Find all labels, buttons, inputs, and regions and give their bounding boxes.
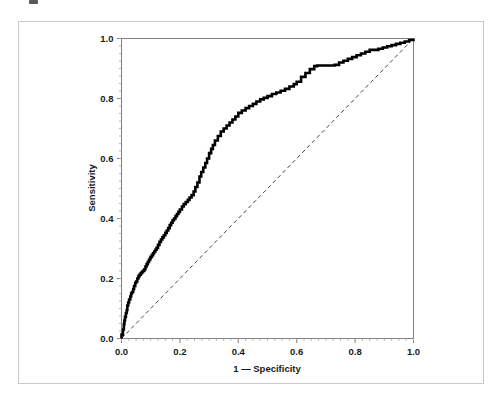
x-tick-label: 0.6 [290,346,303,357]
y-tick-label: 0.8 [100,93,113,104]
y-axis-tick-labels: 0.00.20.40.60.81.0 [100,33,114,344]
roc-curve-line [122,39,414,339]
x-tick-label: 0.0 [115,346,128,357]
y-tick-label: 0.2 [100,273,113,284]
y-axis-minor-ticks [119,39,122,339]
x-axis-title: 1 — Specificity [233,363,301,374]
x-axis-minor-ticks [122,339,414,342]
x-tick-label: 0.2 [173,346,186,357]
x-tick-label: 0.4 [232,346,246,357]
y-axis-title: Sensitivity [86,164,97,212]
y-tick-label: 0.4 [100,213,114,224]
x-tick-label: 0.8 [348,346,361,357]
y-tick-label: 1.0 [100,33,113,44]
y-tick-label: 0.6 [100,153,113,164]
diagonal-reference-line [122,39,414,339]
roc-plot-svg: 0.00.20.40.60.81.0 0.00.20.40.60.81.0 1 … [0,0,501,396]
plot-axes-frame [122,39,414,339]
roc-figure: 0.00.20.40.60.81.0 0.00.20.40.60.81.0 1 … [0,0,501,396]
x-axis-tick-labels: 0.00.20.40.60.81.0 [115,346,420,357]
y-tick-label: 0.0 [100,333,113,344]
x-tick-label: 1.0 [407,346,420,357]
